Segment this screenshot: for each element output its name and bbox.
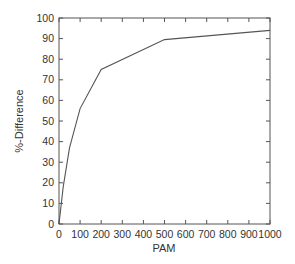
plot-border	[59, 18, 270, 224]
y-tick-label: 60	[42, 94, 54, 106]
plot-frame	[59, 18, 270, 224]
x-tick-label: 200	[92, 228, 110, 240]
y-tick-label: 40	[42, 135, 54, 147]
x-tick-label: 700	[198, 228, 216, 240]
x-tick-label: 900	[240, 228, 258, 240]
x-tick-label: 1000	[258, 228, 282, 240]
x-tick-label: 600	[177, 228, 195, 240]
x-tick-label: 100	[71, 228, 89, 240]
y-tick-label: 10	[42, 197, 54, 209]
x-axis-label: PAM	[152, 242, 175, 254]
data-series	[59, 30, 270, 224]
x-tick-label: 0	[56, 228, 62, 240]
y-tick-label: 100	[36, 12, 54, 24]
y-tick-label: 90	[42, 32, 54, 44]
series-line	[59, 30, 270, 224]
x-tick-label: 300	[114, 228, 132, 240]
x-tick-label: 400	[135, 228, 153, 240]
y-tick-label: 30	[42, 156, 54, 168]
y-axis-ticks: 0102030405060708090100	[36, 12, 270, 230]
y-tick-label: 70	[42, 73, 54, 85]
y-tick-label: 20	[42, 176, 54, 188]
x-tick-label: 500	[156, 228, 174, 240]
y-tick-label: 0	[48, 218, 54, 230]
y-tick-label: 80	[42, 53, 54, 65]
y-tick-label: 50	[42, 115, 54, 127]
line-chart: 0102030405060708090100 01002003004005006…	[0, 0, 295, 264]
x-tick-label: 800	[219, 228, 237, 240]
x-axis-ticks: 01002003004005006007008009001000	[56, 18, 282, 240]
y-axis-label: %-Difference	[13, 89, 25, 152]
